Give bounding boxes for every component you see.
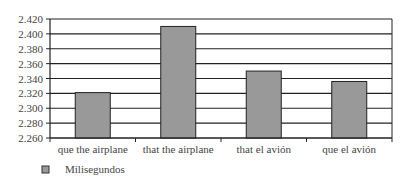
y-tick-label: 2.380 — [18, 43, 43, 55]
bar — [246, 71, 281, 138]
bars — [75, 26, 367, 138]
bar — [75, 93, 110, 138]
y-tick-label: 2.320 — [18, 87, 43, 99]
y-tick-label: 2.340 — [18, 73, 43, 85]
x-axis-labels: que the airplanethat the airplanethat el… — [58, 143, 377, 155]
legend-label: Milisegundos — [65, 163, 125, 175]
x-category-label: that the airplane — [143, 143, 214, 155]
legend-swatch-icon — [42, 166, 49, 173]
x-category-label: que el avión — [322, 143, 376, 155]
y-tick-label: 2.300 — [18, 102, 43, 114]
x-category-label: that el avión — [237, 143, 292, 155]
bar-chart: 2.4202.4002.3802.3602.3402.3202.3002.280… — [0, 0, 412, 185]
y-tick-label: 2.360 — [18, 58, 43, 70]
y-tick-label: 2.280 — [18, 117, 43, 129]
y-tick-label: 2.260 — [18, 132, 43, 144]
y-tick-label: 2.420 — [18, 13, 43, 25]
y-tick-label: 2.400 — [18, 28, 43, 40]
bar — [332, 81, 367, 138]
x-category-label: que the airplane — [58, 143, 128, 155]
legend: Milisegundos — [42, 163, 125, 175]
y-axis-ticks: 2.4202.4002.3802.3602.3402.3202.3002.280… — [18, 13, 50, 144]
bar — [161, 26, 196, 138]
